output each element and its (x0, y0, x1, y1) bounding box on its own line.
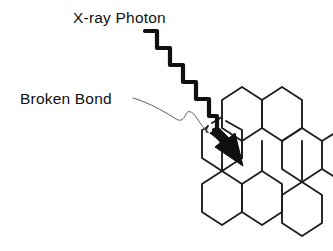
xray-bond-breaking-diagram (0, 0, 333, 251)
diagram-canvas: X-ray Photon Broken Bond (0, 0, 333, 251)
label-xray-photon: X-ray Photon (73, 10, 166, 26)
background (0, 0, 333, 251)
label-broken-bond: Broken Bond (20, 91, 112, 107)
